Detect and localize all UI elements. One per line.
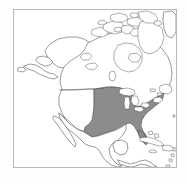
island-bahamas-a [148, 131, 153, 135]
land-central-america [118, 160, 157, 167]
island-bermuda [173, 115, 175, 117]
island-hispaniola [162, 145, 174, 151]
island-jamaica [149, 150, 157, 153]
land-greenland-west-edge [163, 11, 176, 38]
map-figure [0, 0, 189, 185]
lake-michigan [124, 97, 130, 109]
island-trinidad [166, 165, 170, 167]
island-lesser-antilles-b [169, 159, 172, 162]
island-bahamas-b [154, 134, 159, 138]
land-alaska-southwest-tip [18, 67, 26, 72]
map-frame-border [13, 9, 177, 168]
island-cuba [140, 137, 164, 146]
island-lesser-antilles-a [171, 154, 174, 157]
land-yucatan-peninsula [113, 140, 128, 155]
north-america-map [14, 10, 176, 167]
island-melville [110, 13, 128, 22]
land-aleutian-chain [24, 64, 58, 79]
island-puerto-rico [173, 148, 176, 151]
